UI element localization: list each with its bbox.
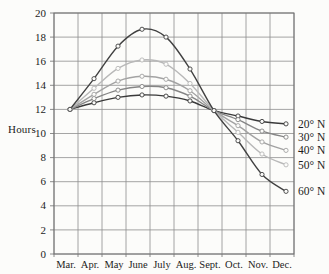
series-marker-40n [92,92,96,96]
series-marker-20n [284,122,288,126]
series-marker-20n [92,101,96,105]
x-tick-label: Dec. [272,259,292,270]
series-label-50n: 50° N [298,159,326,171]
series-marker-50n [236,130,240,134]
series-marker-30n [188,94,192,98]
series-marker-60n [260,172,264,176]
series-marker-60n [236,139,240,143]
series-curve-60n [70,29,286,191]
series-marker-20n [164,94,168,98]
y-tick-label: 12 [35,103,46,115]
series-marker-40n [188,89,192,93]
series-marker-20n [116,95,120,99]
series-label-60n: 60° N [298,185,326,197]
series-curve-40n [70,76,286,150]
x-tick-label: Mar. [56,259,76,270]
series-label-40n: 40° N [298,144,326,156]
y-tick-label: 4 [41,199,47,211]
series-marker-50n [116,66,120,70]
series-marker-30n [260,129,264,133]
series-marker-20n [140,93,144,97]
x-tick-label: Apr. [81,259,99,270]
y-tick-label: 16 [35,55,47,67]
series-curve-50n [70,60,286,165]
series-marker-40n [116,79,120,83]
series-marker-20n [188,99,192,103]
chart-canvas: 02468101214161820Mar.Apr.MayJuneJulyAug.… [0,0,329,274]
series-marker-40n [164,77,168,81]
series-marker-40n [236,124,240,128]
series-marker-60n [188,67,192,71]
y-tick-label: 14 [35,79,47,91]
series-marker-40n [140,74,144,78]
series-marker-60n [284,189,288,193]
y-tick-label: 18 [35,31,47,43]
x-tick-label: Sept. [199,259,220,270]
series-marker-60n [92,77,96,81]
series-marker-30n [92,96,96,100]
series-marker-50n [260,152,264,156]
y-tick-label: 2 [41,224,47,236]
x-tick-label: Nov. [248,259,268,270]
series-marker-50n [164,62,168,66]
series-label-20n: 20° N [298,118,326,130]
y-tick-label: 6 [41,175,47,187]
series-marker-60n [68,107,72,111]
daylight-hours-chart: Hours 02468101214161820Mar.Apr.MayJuneJu… [0,0,329,274]
series-marker-60n [164,35,168,39]
series-marker-30n [116,88,120,92]
series-marker-50n [92,86,96,90]
series-curve-30n [70,86,286,137]
y-tick-label: 8 [41,151,47,163]
series-marker-50n [188,81,192,85]
series-marker-20n [260,119,264,123]
x-tick-label: May [104,259,124,270]
series-marker-40n [260,140,264,144]
series-marker-30n [164,86,168,90]
x-tick-label: June [128,259,148,270]
series-marker-30n [284,135,288,139]
x-tick-label: July [153,259,171,270]
y-tick-label: 20 [35,7,47,19]
series-marker-60n [116,44,120,48]
series-marker-30n [140,84,144,88]
series-label-30n: 30° N [298,131,326,143]
y-tick-label: 10 [35,127,47,139]
series-marker-30n [236,118,240,122]
series-marker-60n [212,109,216,113]
series-marker-40n [284,148,288,152]
series-marker-60n [140,27,144,31]
x-tick-label: Oct. [225,259,243,270]
series-marker-50n [140,58,144,62]
series-marker-50n [284,163,288,167]
y-tick-label: 0 [41,248,47,260]
x-tick-label: Aug. [176,259,197,270]
